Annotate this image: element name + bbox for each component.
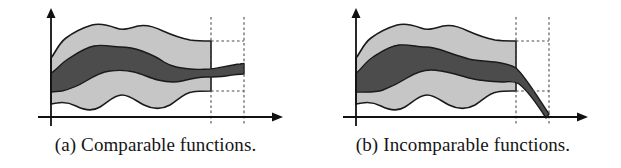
caption-text-b: Incomparable functions. — [383, 134, 570, 155]
caption-label-b: (b) — [356, 134, 378, 155]
figure-container: (a)Comparable functions. — [0, 0, 621, 168]
x-axis-arrow-a — [272, 113, 283, 122]
caption-label-a: (a) — [55, 134, 76, 155]
caption-text-a: Comparable functions. — [81, 134, 256, 155]
subfigure-a: (a)Comparable functions. — [0, 0, 311, 168]
y-axis-arrow-a — [47, 8, 56, 18]
x-axis-arrow-b — [577, 113, 588, 122]
caption-a: (a)Comparable functions. — [0, 130, 311, 160]
subfigure-b: (b)Incomparable functions. — [305, 0, 621, 168]
y-axis-arrow-b — [352, 8, 361, 18]
plot-a — [0, 4, 311, 130]
plot-b — [305, 4, 621, 130]
caption-b: (b)Incomparable functions. — [305, 130, 621, 160]
